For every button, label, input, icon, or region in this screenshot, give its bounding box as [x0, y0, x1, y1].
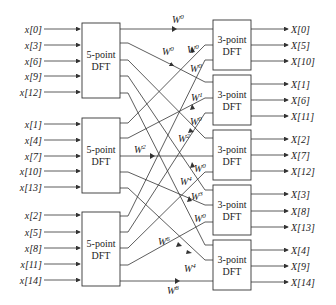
svg-text:W4: W4 — [180, 175, 192, 187]
svg-text:W0: W0 — [162, 45, 174, 57]
stage2-block-1: 3-point DFT — [213, 20, 251, 70]
svg-text:x[12]: x[12] — [19, 87, 42, 98]
svg-text:W8: W8 — [167, 284, 179, 296]
svg-text:DFT: DFT — [223, 156, 242, 167]
svg-text:W0: W0 — [172, 13, 184, 25]
svg-text:X[9]: X[9] — [290, 261, 310, 272]
svg-text:W2: W2 — [178, 132, 190, 144]
svg-text:3-point: 3-point — [218, 34, 247, 45]
svg-text:x[6]: x[6] — [24, 56, 42, 67]
output-labels: X[0] X[5] X[10] X[1] X[6] X[11] X[2] X[7… — [290, 24, 315, 288]
svg-text:x[1]: x[1] — [24, 119, 42, 130]
svg-text:DFT: DFT — [92, 61, 111, 72]
stage1-block-3: 5-point DFT — [82, 212, 120, 286]
svg-text:W1: W1 — [191, 91, 203, 103]
stage2-block-4: 3-point DFT — [213, 185, 251, 235]
svg-text:DFT: DFT — [223, 46, 242, 57]
svg-text:x[13]: x[13] — [19, 182, 42, 193]
svg-text:W6: W6 — [158, 235, 170, 247]
stage2-block-3: 3-point DFT — [213, 130, 251, 180]
svg-text:X[10]: X[10] — [290, 56, 315, 67]
svg-text:x[10]: x[10] — [19, 166, 42, 177]
svg-text:X[14]: X[14] — [290, 277, 315, 288]
svg-text:X[5]: X[5] — [290, 40, 310, 51]
input-labels: x[0] x[3] x[6] x[9] x[12] x[1] x[4] x[7]… — [19, 24, 42, 286]
stage2-block-2: 3-point DFT — [213, 75, 251, 125]
svg-text:3-point: 3-point — [218, 89, 247, 100]
svg-text:3-point: 3-point — [218, 144, 247, 155]
svg-text:x[0]: x[0] — [24, 24, 42, 35]
svg-text:DFT: DFT — [92, 156, 111, 167]
svg-text:X[12]: X[12] — [290, 166, 315, 177]
svg-text:x[3]: x[3] — [24, 40, 42, 51]
svg-text:x[14]: x[14] — [19, 275, 42, 286]
svg-text:3-point: 3-point — [218, 254, 247, 265]
twiddle-labels: W0 W0 W0 W0 W1 W0 W2 W2 W0 W4 W3 W0 W6 W… — [134, 13, 206, 296]
svg-text:X[8]: X[8] — [290, 206, 310, 217]
svg-text:X[11]: X[11] — [290, 111, 314, 122]
svg-text:X[7]: X[7] — [290, 150, 310, 161]
svg-text:W3: W3 — [191, 190, 203, 202]
input-lines — [44, 29, 80, 280]
svg-text:5-point: 5-point — [87, 49, 116, 60]
svg-text:W0: W0 — [187, 43, 199, 55]
svg-text:X[0]: X[0] — [290, 24, 310, 35]
svg-text:x[4]: x[4] — [24, 135, 42, 146]
output-lines — [251, 29, 288, 282]
svg-text:X[4]: X[4] — [290, 245, 310, 256]
stage2-block-5: 3-point DFT — [213, 240, 251, 290]
svg-text:W4: W4 — [184, 262, 196, 274]
fft-flow-diagram: 5-point DFT 5-point DFT 5-point DFT 3-po… — [0, 0, 336, 305]
svg-text:3-point: 3-point — [218, 199, 247, 210]
svg-text:x[8]: x[8] — [24, 243, 42, 254]
svg-text:W0: W0 — [190, 115, 202, 127]
svg-text:X[2]: X[2] — [290, 134, 310, 145]
stage1-block-2: 5-point DFT — [82, 118, 120, 193]
svg-text:DFT: DFT — [223, 211, 242, 222]
svg-text:x[9]: x[9] — [24, 71, 42, 82]
svg-text:X[13]: X[13] — [290, 222, 315, 233]
stage1-block-1: 5-point DFT — [82, 23, 120, 98]
svg-text:x[11]: x[11] — [20, 259, 43, 270]
svg-text:X[6]: X[6] — [290, 95, 310, 106]
svg-text:W2: W2 — [134, 143, 146, 155]
svg-text:x[5]: x[5] — [24, 227, 42, 238]
svg-text:DFT: DFT — [223, 266, 242, 277]
svg-text:DFT: DFT — [223, 101, 242, 112]
svg-text:X[3]: X[3] — [290, 189, 310, 200]
svg-text:x[7]: x[7] — [24, 151, 42, 162]
svg-text:DFT: DFT — [92, 250, 111, 261]
svg-text:W0: W0 — [190, 62, 202, 74]
svg-text:5-point: 5-point — [87, 238, 116, 249]
svg-text:5-point: 5-point — [87, 144, 116, 155]
svg-text:X[1]: X[1] — [290, 79, 310, 90]
svg-text:x[2]: x[2] — [24, 210, 42, 221]
